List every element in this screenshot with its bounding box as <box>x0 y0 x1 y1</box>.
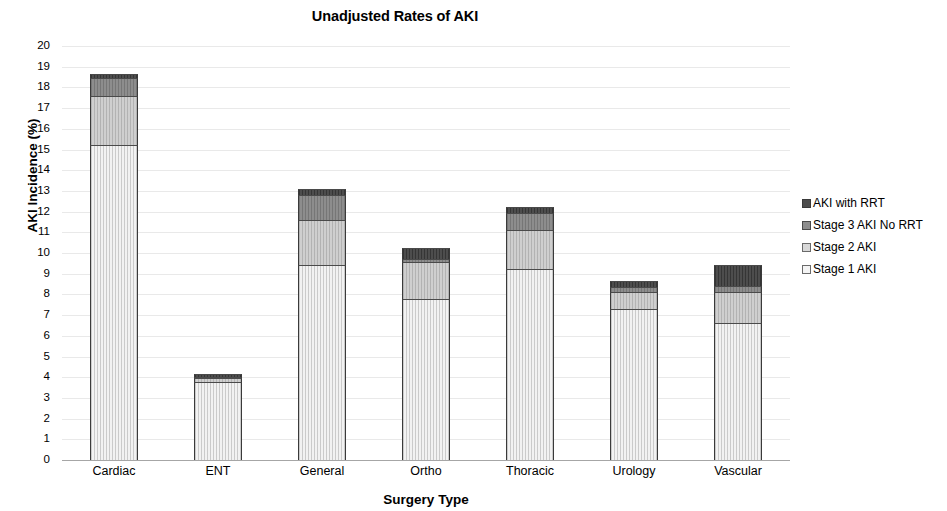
bar-segment-stage3[interactable] <box>90 78 138 96</box>
y-axis-tick-label: 3 <box>6 392 50 404</box>
y-axis-tick-label: 13 <box>6 185 50 197</box>
chart-container: Unadjusted Rates of AKI AKI Incidence (%… <box>0 0 947 511</box>
y-axis-tick-label: 1 <box>6 433 50 445</box>
bar-segment-stage2[interactable] <box>714 292 762 323</box>
bar-stack <box>610 281 658 460</box>
bar-group[interactable] <box>714 46 762 460</box>
legend-swatch-icon <box>802 243 811 252</box>
y-axis-tick-label: 12 <box>6 206 50 218</box>
chart-legend: AKI with RRTStage 3 AKI No RRTStage 2 AK… <box>802 192 947 280</box>
bar-stack <box>402 248 450 460</box>
y-axis-tick-label: 17 <box>6 102 50 114</box>
bar-stack <box>90 74 138 460</box>
bar-segment-rrt[interactable] <box>402 248 450 259</box>
y-axis-tick-label: 14 <box>6 164 50 176</box>
y-axis-tick-label: 5 <box>6 351 50 363</box>
bar-group[interactable] <box>506 46 554 460</box>
legend-label: Stage 2 AKI <box>813 241 876 253</box>
plot-area <box>62 46 790 460</box>
bar-segment-stage2[interactable] <box>610 292 658 309</box>
y-axis-tick-label: 20 <box>6 40 50 52</box>
bar-segment-rrt[interactable] <box>714 265 762 286</box>
bar-group[interactable] <box>194 46 242 460</box>
x-axis-tick-label: Vascular <box>678 464 798 478</box>
x-axis-tick-label: General <box>262 464 382 478</box>
legend-label: Stage 3 AKI No RRT <box>813 219 923 231</box>
x-axis-tick-label: Urology <box>574 464 694 478</box>
legend-item[interactable]: Stage 2 AKI <box>802 236 947 258</box>
y-axis-tick-label: 11 <box>6 226 50 238</box>
legend-item[interactable]: Stage 3 AKI No RRT <box>802 214 947 236</box>
bar-segment-stage1[interactable] <box>506 269 554 460</box>
legend-label: AKI with RRT <box>813 197 885 209</box>
x-axis-tick-label: Ortho <box>366 464 486 478</box>
y-axis-tick-label: 16 <box>6 123 50 135</box>
y-axis-tick-label: 15 <box>6 144 50 156</box>
bar-group[interactable] <box>402 46 450 460</box>
legend-label: Stage 1 AKI <box>813 263 876 275</box>
legend-item[interactable]: Stage 1 AKI <box>802 258 947 280</box>
y-axis-tick-label: 10 <box>6 247 50 259</box>
y-axis-tick-label: 2 <box>6 413 50 425</box>
bar-segment-stage1[interactable] <box>298 265 346 460</box>
bar-group[interactable] <box>298 46 346 460</box>
x-axis-tick-labels: CardiacENTGeneralOrthoThoracicUrologyVas… <box>62 464 790 486</box>
bar-segment-stage1[interactable] <box>610 309 658 460</box>
bar-segment-stage1[interactable] <box>402 299 450 460</box>
legend-swatch-icon <box>802 221 811 230</box>
bar-stack <box>506 207 554 460</box>
y-axis-tick-label: 19 <box>6 61 50 73</box>
bar-segment-stage2[interactable] <box>90 96 138 146</box>
bar-segment-stage3[interactable] <box>506 213 554 231</box>
bar-segment-stage3[interactable] <box>298 195 346 220</box>
x-axis-tick-label: Cardiac <box>54 464 174 478</box>
x-axis-tick-label: ENT <box>158 464 278 478</box>
y-axis-tick-label: 7 <box>6 309 50 321</box>
legend-item[interactable]: AKI with RRT <box>802 192 947 214</box>
y-axis-tick-labels: 01234567891011121314151617181920 <box>0 46 56 460</box>
y-axis-tick-label: 0 <box>6 454 50 466</box>
legend-swatch-icon <box>802 265 811 274</box>
y-axis-tick-label: 18 <box>6 81 50 93</box>
y-axis-tick-label: 6 <box>6 330 50 342</box>
y-axis-tick-label: 4 <box>6 371 50 383</box>
bar-stack <box>714 265 762 460</box>
bar-segment-stage1[interactable] <box>714 323 762 460</box>
bar-stack <box>194 374 242 460</box>
bar-segment-stage2[interactable] <box>402 262 450 298</box>
chart-title: Unadjusted Rates of AKI <box>0 8 790 24</box>
x-axis-tick-label: Thoracic <box>470 464 590 478</box>
y-axis-tick-label: 9 <box>6 268 50 280</box>
bar-segment-stage1[interactable] <box>194 382 242 460</box>
axis-line-zero <box>62 460 790 461</box>
bar-group[interactable] <box>90 46 138 460</box>
bar-stack <box>298 189 346 460</box>
bar-group[interactable] <box>610 46 658 460</box>
legend-swatch-icon <box>802 199 811 208</box>
bar-segment-stage1[interactable] <box>90 145 138 460</box>
y-axis-tick-label: 8 <box>6 288 50 300</box>
bar-segment-stage2[interactable] <box>506 230 554 268</box>
bar-segment-stage2[interactable] <box>298 220 346 266</box>
x-axis-title: Surgery Type <box>62 492 790 511</box>
